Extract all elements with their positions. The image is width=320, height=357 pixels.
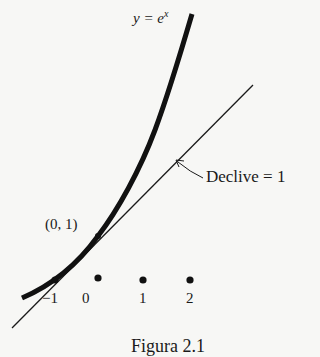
figure-caption: Figura 2.1 [131,336,205,357]
x-tick-label: 2 [186,290,194,307]
equation-base: y = e [133,10,164,26]
equation-exponent: x [164,8,168,19]
x-tick-dot [139,276,146,283]
x-tick-dot [51,276,58,283]
point-label: (0, 1) [45,216,78,233]
slope-annotation: Declive = 1 [206,167,285,187]
exponential-curve [22,14,192,298]
x-tick-label: 1 [139,290,147,307]
x-tick-dot [186,276,193,283]
point-marker [95,233,101,239]
curve-equation-label: y = ex [133,8,168,27]
annotation-arrow [178,162,203,178]
x-tick-label: 0 [82,290,90,307]
x-tick-label: −1 [42,290,58,307]
x-tick-dot [94,274,101,281]
